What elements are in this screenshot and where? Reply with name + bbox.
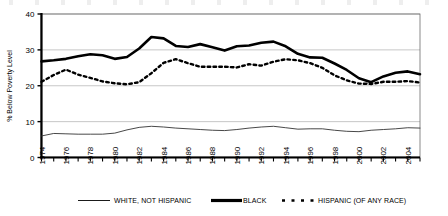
- x-tick-label-1994: 1994: [282, 146, 291, 164]
- y-tick-label-40: 40: [26, 10, 35, 19]
- chart-legend: WHITE, NOT HISPANICBLACKHISPANIC (OF ANY…: [78, 197, 406, 205]
- x-tick-label-2002: 2002: [379, 146, 388, 164]
- x-tick-label-1980: 1980: [111, 146, 120, 164]
- x-axis-tick-labels: 1974197619781980198219841986198819901992…: [38, 146, 413, 164]
- y-axis-title: % Below Poverty Level: [6, 50, 14, 122]
- x-tick-label-1984: 1984: [160, 146, 169, 164]
- series-line-white-not-hispanic: [42, 126, 421, 136]
- series-line-black: [42, 37, 421, 82]
- x-tick-label-1986: 1986: [184, 146, 193, 164]
- x-tick-label-1978: 1978: [86, 146, 95, 164]
- poverty-rate-line-chart: 010203040 197419761978198019821984198619…: [0, 0, 448, 216]
- y-tick-label-0: 0: [30, 154, 35, 163]
- x-tick-label-1974: 1974: [38, 146, 47, 164]
- x-tick-label-1988: 1988: [208, 146, 217, 164]
- x-tick-label-1976: 1976: [62, 146, 71, 164]
- legend-label-thick-line-swatch: BLACK: [243, 197, 267, 204]
- data-series-layer: [42, 37, 421, 136]
- x-tick-label-1982: 1982: [135, 146, 144, 164]
- x-tick-label-1996: 1996: [306, 146, 315, 164]
- y-tick-label-20: 20: [26, 82, 35, 91]
- y-tick-label-10: 10: [26, 118, 35, 127]
- legend-label-dotted-line-swatch: HISPANIC (OF ANY RACE): [318, 197, 406, 205]
- x-tick-label-1998: 1998: [331, 146, 340, 164]
- y-axis-tick-labels: 010203040: [26, 10, 35, 163]
- y-tick-label-30: 30: [26, 46, 35, 55]
- x-tick-label-2000: 2000: [355, 146, 364, 164]
- x-tick-label-1992: 1992: [257, 146, 266, 164]
- x-tick-label-2004: 2004: [404, 146, 413, 164]
- x-tick-label-1990: 1990: [233, 146, 242, 164]
- chart-canvas: 010203040 197419761978198019821984198619…: [0, 0, 448, 216]
- legend-label-thin-line-swatch: WHITE, NOT HISPANIC: [114, 197, 191, 204]
